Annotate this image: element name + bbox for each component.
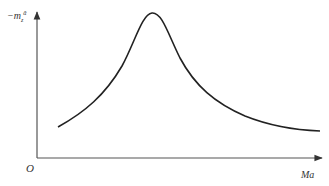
data-curve: [58, 13, 320, 131]
y-axis-label: −mzᾱ: [7, 10, 26, 23]
chart-canvas: [0, 0, 329, 186]
x-axis-label: Ma: [301, 169, 314, 180]
origin-label: O: [26, 162, 34, 174]
